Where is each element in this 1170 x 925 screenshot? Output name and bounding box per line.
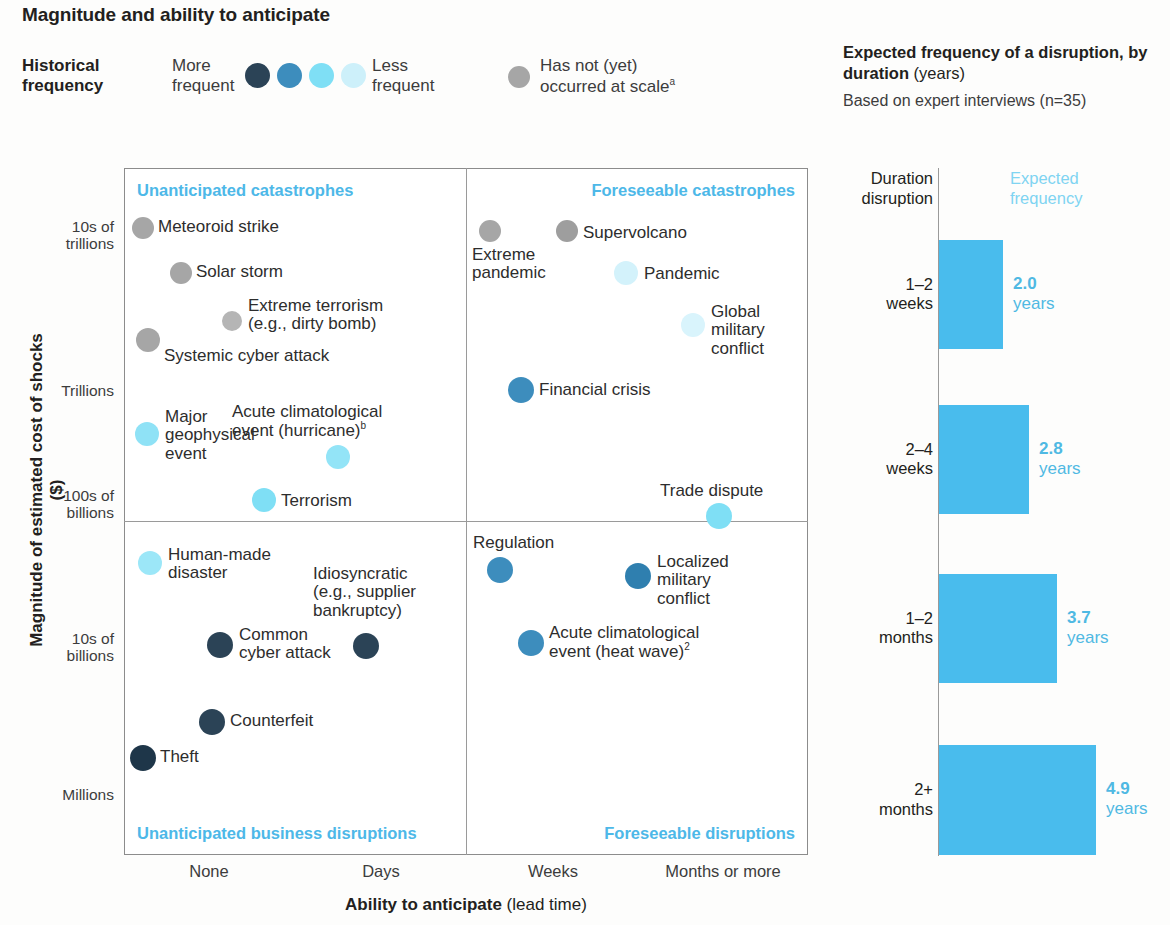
bar[interactable]: [939, 405, 1029, 514]
scatter-dot[interactable]: [508, 377, 534, 403]
bar-value-label: 3.7years: [1067, 608, 1109, 649]
scatter-point-label: Regulation: [473, 534, 554, 552]
scatter-point-label: Supervolcano: [583, 224, 687, 242]
page-title: Magnitude and ability to anticipate: [22, 4, 330, 26]
legend-frequency-swatches: [245, 63, 366, 88]
scatter-point-label: Financial crisis: [539, 381, 650, 399]
scatter-point-label: Trade dispute: [660, 482, 763, 500]
bar-value-label: 2.0years: [1013, 274, 1055, 315]
scatter-point-label: Idiosyncratic(e.g., supplierbankruptcy): [313, 565, 416, 620]
legend-title-line1: Historical: [22, 56, 152, 76]
legend-more-line1: More: [172, 56, 234, 76]
scatter-dot[interactable]: [170, 262, 192, 284]
bar[interactable]: [939, 574, 1057, 683]
scatter-dot[interactable]: [138, 551, 162, 575]
scatter-dot[interactable]: [135, 422, 159, 446]
legend-less-line1: Less: [372, 56, 434, 76]
scatter-point-label: Extreme terrorism(e.g., dirty bomb): [248, 297, 383, 334]
quadrant-label-bottom-left: Unanticipated business disruptions: [137, 824, 417, 843]
legend-swatch-4: [341, 63, 366, 88]
right-panel-title-units: (years): [909, 64, 965, 82]
legend-not-occurred-line2: occurred at scalea: [540, 76, 675, 97]
scatter-point-label: Human-madedisaster: [168, 546, 271, 583]
scatter-dot[interactable]: [518, 630, 544, 656]
y-tick-millions: Millions: [28, 786, 114, 803]
right-panel-title: Expected frequency of a disruption, by d…: [843, 42, 1170, 83]
scatter-dot[interactable]: [207, 632, 233, 658]
footnote-marker: 2: [684, 641, 690, 652]
legend-swatch-3: [309, 63, 334, 88]
legend-not-occurred-line1: Has not (yet): [540, 56, 675, 76]
y-tick-10s-trillions: 10s oftrillions: [28, 218, 114, 252]
x-axis-title-bold: Ability to anticipate: [345, 895, 502, 914]
scatter-point-label: Theft: [160, 748, 199, 766]
scatter-dot[interactable]: [353, 633, 379, 659]
x-tick-weeks: Weeks: [468, 862, 638, 881]
bar-category-label: 1–2months: [845, 609, 933, 649]
scatter-point-label: Counterfeit: [230, 712, 313, 730]
x-axis-title-norm: (lead time): [502, 895, 587, 914]
legend-not-occurred-label: Has not (yet) occurred at scalea: [540, 56, 675, 97]
right-panel-title-bold: Expected frequency of a disruption, by d…: [843, 43, 1147, 82]
bar[interactable]: [939, 745, 1096, 855]
x-axis-title: Ability to anticipate (lead time): [124, 895, 808, 915]
bar-chart-duration-header: Duration disruption: [845, 168, 933, 208]
scatter-dot[interactable]: [130, 745, 156, 771]
scatter-dot[interactable]: [706, 503, 732, 529]
bar-category-label: 2–4weeks: [845, 440, 933, 480]
scatter-dot[interactable]: [487, 557, 513, 583]
quadrant-label-bottom-right: Foreseeable disruptions: [604, 824, 795, 843]
scatter-dot[interactable]: [681, 313, 705, 337]
x-tick-none: None: [124, 862, 294, 881]
legend-title-line2: frequency: [22, 76, 152, 96]
legend-more-line2: frequent: [172, 76, 234, 96]
bar-chart-frequency-header: Expected frequency: [1010, 168, 1150, 208]
legend-less-line2: frequent: [372, 76, 434, 96]
scatter-point-label: Commoncyber attack: [239, 626, 331, 663]
quadrant-label-top-right: Foreseeable catastrophes: [591, 181, 795, 200]
scatter-point-label: Pandemic: [644, 265, 720, 283]
legend-swatch-1: [245, 63, 270, 88]
scatter-dot[interactable]: [132, 217, 154, 239]
scatter-point-label: Terrorism: [281, 492, 352, 510]
scatter-dot[interactable]: [222, 311, 242, 331]
bar-value-label: 2.8years: [1039, 439, 1081, 480]
scatter-point-label: Localizedmilitaryconflict: [657, 553, 729, 608]
x-tick-months-or-more: Months or more: [638, 862, 808, 881]
legend-title: Historical frequency: [22, 56, 152, 97]
scatter-dot[interactable]: [326, 445, 350, 469]
scatter-point-label: Systemic cyber attack: [164, 347, 329, 365]
scatter-point-label: Acute climatologicalevent (heat wave)2: [549, 624, 699, 661]
scatter-dot[interactable]: [136, 328, 160, 352]
legend-not-occurred-dot-icon: [508, 66, 530, 88]
scatter-dot[interactable]: [614, 261, 638, 285]
scatter-dot[interactable]: [625, 563, 651, 589]
scatter-dot[interactable]: [556, 220, 578, 242]
bar-value-label: 4.9years: [1106, 779, 1148, 820]
quadrant-divider-vertical: [466, 168, 467, 855]
quadrant-divider-horizontal: [124, 521, 808, 522]
scatter-point-label: Globalmilitaryconflict: [711, 303, 765, 358]
footnote-marker: b: [361, 420, 367, 431]
footnote-marker-a: a: [669, 76, 675, 87]
y-axis-title: Magnitude of estimated cost of shocks ($…: [27, 325, 67, 655]
scatter-point-label: Acute climatologicalevent (hurricane)b: [232, 403, 382, 440]
scatter-point-label: Meteoroid strike: [158, 218, 279, 236]
right-panel-subtitle: Based on expert interviews (n=35): [843, 92, 1170, 110]
scatter-point-label: Extremepandemic: [472, 246, 546, 283]
legend-less-frequent-label: Less frequent: [372, 56, 434, 97]
scatter-dot[interactable]: [252, 488, 276, 512]
bar-category-label: 1–2weeks: [845, 275, 933, 315]
scatter-dot[interactable]: [199, 709, 225, 735]
x-tick-days: Days: [296, 862, 466, 881]
quadrant-label-top-left: Unanticipated catastrophes: [137, 181, 353, 200]
bar[interactable]: [939, 240, 1003, 349]
legend-more-frequent-label: More frequent: [172, 56, 234, 97]
scatter-point-label: Solar storm: [196, 263, 283, 281]
legend-swatch-2: [277, 63, 302, 88]
bar-category-label: 2+months: [845, 780, 933, 820]
scatter-dot[interactable]: [479, 220, 501, 242]
